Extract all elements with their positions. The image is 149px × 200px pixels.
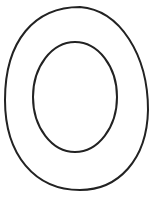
outer-outline xyxy=(5,7,148,190)
inner-outline xyxy=(33,42,117,152)
letter-o-drawing xyxy=(0,0,149,200)
